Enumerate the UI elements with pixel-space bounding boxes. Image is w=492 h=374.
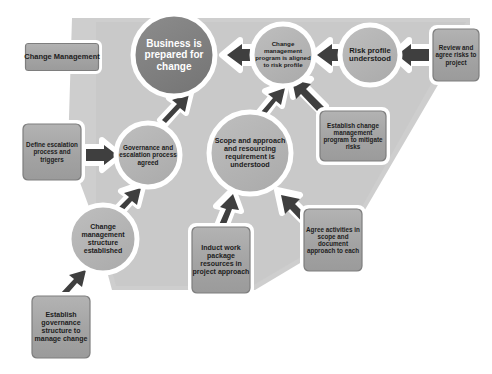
circle-scope-approach-understood[interactable] (209, 112, 291, 194)
box-establish-change-program[interactable] (318, 109, 388, 163)
circle-governance-escalation-agreed[interactable] (116, 123, 180, 187)
box-review-agree-risks[interactable] (431, 27, 481, 83)
circle-risk-profile-understood[interactable] (340, 25, 400, 85)
box-induct-work-package[interactable] (190, 225, 252, 295)
circle-business-prepared-for-change[interactable] (133, 14, 215, 96)
circle-change-program-aligned[interactable] (252, 24, 314, 86)
legend-box-change-management (24, 42, 100, 72)
box-establish-governance-structure[interactable] (30, 294, 92, 360)
benefits-dependency-diagram (0, 0, 492, 374)
box-agree-activities-in-scope[interactable] (302, 207, 364, 273)
box-define-escalation-process[interactable] (21, 122, 83, 182)
circle-change-structure-established[interactable] (69, 205, 137, 273)
